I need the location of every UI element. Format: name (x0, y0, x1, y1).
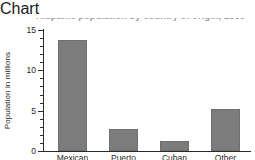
y-tick-label: 15 (0, 26, 36, 35)
y-tick-major (38, 151, 44, 152)
y-axis-line (43, 29, 44, 152)
y-tick-major (38, 111, 44, 112)
y-tick-minor (40, 127, 44, 128)
y-tick-minor (40, 38, 44, 39)
category-label-line: Other (200, 154, 251, 160)
y-tick-label: 0 (0, 147, 36, 156)
y-tick-minor (40, 119, 44, 120)
bar-chart-figure: Hispanic population by country of origin… (0, 18, 255, 160)
y-tick-major (38, 30, 44, 31)
y-tick-minor (40, 95, 44, 96)
y-tick-minor (40, 46, 44, 47)
bar (109, 129, 138, 151)
chart-title-cropped: Hispanic population by country of origin… (0, 18, 255, 23)
category-label-line: Cuban (149, 154, 200, 160)
category-label: Other (200, 154, 251, 160)
y-tick-minor (40, 78, 44, 79)
y-tick-minor (40, 135, 44, 136)
category-label-line: Puerto (98, 154, 149, 160)
y-tick-minor (40, 62, 44, 63)
y-tick-major (38, 70, 44, 71)
category-label: PuertoRican (98, 154, 149, 160)
x-axis-line (43, 151, 251, 152)
category-label: Mexican (47, 154, 98, 160)
y-tick-minor (40, 86, 44, 87)
y-tick-minor (40, 143, 44, 144)
bar (160, 141, 189, 151)
y-tick-label: 5 (0, 107, 36, 116)
bar (211, 109, 240, 151)
bar (58, 40, 87, 151)
category-label: Cuban (149, 154, 200, 160)
y-tick-label: 10 (0, 66, 36, 75)
chart-title-text: Hispanic population by country of origin… (36, 18, 245, 21)
y-axis-title-text: Population in millions (4, 52, 13, 129)
y-axis-title: Population in millions (0, 18, 16, 160)
y-tick-minor (40, 103, 44, 104)
category-label-line: Mexican (47, 154, 98, 160)
y-tick-minor (40, 54, 44, 55)
